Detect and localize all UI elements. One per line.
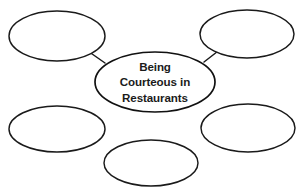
branch-oval-top-right[interactable]	[200, 10, 294, 58]
branch-oval-bottom-center[interactable]	[104, 140, 198, 186]
branch-oval-top-left[interactable]	[9, 11, 105, 61]
branch-oval-bottom-right[interactable]	[201, 104, 295, 152]
concept-web-diagram	[0, 0, 299, 190]
branch-oval-bottom-left[interactable]	[9, 106, 105, 152]
center-oval-topic[interactable]	[95, 52, 215, 112]
